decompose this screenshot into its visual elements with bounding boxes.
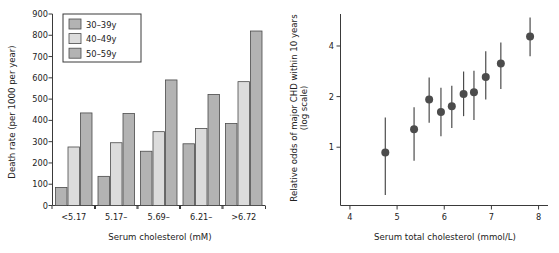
y-axis-tick-labels: 124 (329, 41, 334, 152)
bar-5059y-0 (81, 113, 93, 206)
figure-container: Death rate (per 1000 per year) 010020030… (0, 0, 559, 253)
left-bar-chart-panel: Death rate (per 1000 per year) 010020030… (0, 0, 280, 253)
y-tick-label: 0 (43, 201, 48, 211)
bar-3039y-0 (56, 187, 68, 205)
legend-label-1: 40–49y (86, 34, 117, 44)
x-axis-title: Serum cholesterol (mM) (108, 232, 211, 242)
bar-4049y-1 (111, 143, 123, 206)
right-scatter-chart-panel: Relative odds of major CHD within 10 yea… (280, 0, 559, 253)
data-point-1 (410, 125, 418, 133)
y-axis-title-line1: Relative odds of major CHD within 10 yea… (289, 14, 299, 202)
legend-label-2: 50–59y (86, 49, 117, 59)
bar-4049y-3 (196, 128, 208, 205)
y-tick-label: 500 (32, 94, 48, 104)
y-axis-tick-marks (337, 46, 341, 147)
legend-label-0: 30–39y (86, 20, 117, 30)
x-tick-label: 7 (489, 212, 494, 222)
x-axis-tick-marks (52, 206, 266, 210)
legend-swatch-0 (69, 19, 81, 29)
bar-4049y-4 (238, 82, 250, 206)
x-axis-title: Serum total cholesterol (mmol/L) (374, 232, 516, 242)
bar-5059y-1 (123, 114, 135, 206)
y-axis-tick-marks (49, 14, 53, 206)
death-rate-bar-chart: Death rate (per 1000 per year) 010020030… (0, 0, 280, 253)
data-point-6 (470, 88, 478, 96)
data-point-3 (437, 108, 445, 116)
y-tick-label: 600 (32, 73, 48, 83)
bar-3039y-2 (141, 151, 153, 205)
bar-5059y-3 (208, 94, 220, 205)
y-tick-label: 2 (329, 92, 334, 102)
data-point-9 (526, 33, 534, 41)
y-tick-label: 100 (32, 179, 48, 189)
bar-4049y-2 (153, 132, 165, 206)
data-point-4 (448, 102, 456, 110)
legend-items: 30–39y40–49y50–59y (69, 19, 117, 59)
x-axis-tick-labels: 45678 (347, 212, 541, 222)
y-tick-label: 200 (32, 158, 48, 168)
data-point-2 (425, 96, 433, 104)
legend-swatch-1 (69, 34, 81, 44)
y-axis-title-line2: (log scale) (299, 86, 309, 131)
y-tick-label: 900 (32, 9, 48, 19)
relative-odds-scatter-chart: Relative odds of major CHD within 10 yea… (280, 0, 559, 253)
bar-3039y-4 (226, 124, 238, 206)
y-axis-title: Death rate (per 1000 per year) (7, 45, 17, 178)
x-tick-label: 6.21– (190, 212, 212, 222)
data-point-0 (381, 149, 389, 157)
data-point-7 (482, 73, 490, 81)
data-point-series (381, 18, 534, 195)
legend: 30–39y40–49y50–59y (63, 14, 141, 62)
data-point-5 (460, 90, 468, 98)
x-tick-label: 6 (442, 212, 447, 222)
y-tick-label: 4 (329, 41, 334, 51)
y-tick-label: 300 (32, 137, 48, 147)
y-axis-tick-labels: 0100200300400500600700800900 (32, 9, 48, 211)
data-point-8 (497, 59, 505, 67)
y-tick-label: 400 (32, 115, 48, 125)
y-tick-label: 1 (329, 142, 334, 152)
x-tick-label: >6.72 (231, 212, 256, 222)
bar-3039y-1 (98, 176, 110, 205)
x-axis-tick-marks (350, 206, 539, 210)
bar-4049y-0 (68, 147, 80, 206)
x-tick-label: 5.17– (105, 212, 127, 222)
x-tick-label: 5.69– (148, 212, 170, 222)
x-tick-label: 8 (536, 212, 541, 222)
x-tick-label: 4 (347, 212, 352, 222)
y-tick-label: 800 (32, 30, 48, 40)
x-axis-tick-labels: <5.175.17–5.69–6.21–>6.72 (61, 212, 256, 222)
bar-5059y-4 (251, 31, 263, 205)
legend-swatch-2 (69, 48, 81, 58)
x-tick-label: <5.17 (61, 212, 86, 222)
bar-5059y-2 (166, 80, 178, 206)
y-tick-label: 700 (32, 52, 48, 62)
bar-3039y-3 (183, 144, 195, 206)
x-tick-label: 5 (394, 212, 399, 222)
